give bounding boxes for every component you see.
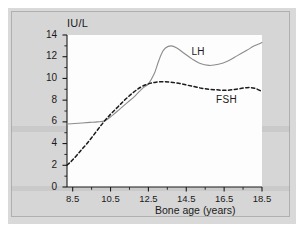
y-tick-label: 4 (41, 137, 57, 148)
y-tick-label: 2 (41, 159, 57, 170)
x-tick-label: 8.5 (61, 193, 85, 204)
x-tick-label: 10.5 (99, 193, 123, 204)
figure-page: IU/L Bone age (years) 02468101214 8.510.… (0, 0, 304, 240)
x-tick-label: 12.5 (136, 193, 160, 204)
x-tick-label: 18.5 (250, 193, 274, 204)
series-annotation-lh: LH (191, 46, 204, 57)
y-tick-label: 8 (41, 94, 57, 105)
y-tick-label: 0 (41, 181, 57, 192)
series-line-lh (67, 43, 262, 124)
x-tick-label: 14.5 (174, 193, 198, 204)
y-tick-label: 14 (41, 29, 57, 40)
series-annotation-fsh: FSH (216, 94, 237, 105)
x-tick-label: 16.5 (212, 193, 236, 204)
y-tick-label: 12 (41, 50, 57, 61)
y-tick-label: 6 (41, 115, 57, 126)
y-tick-label: 10 (41, 72, 57, 83)
